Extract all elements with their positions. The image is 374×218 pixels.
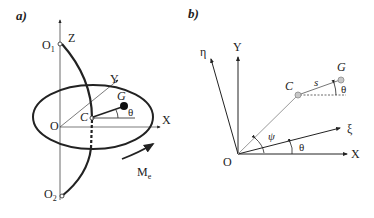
o2-label: O2 <box>44 187 57 203</box>
x-axis-label: X <box>162 113 171 127</box>
oc-line <box>238 95 298 154</box>
psi-label: ψ <box>268 130 275 142</box>
point-o2 <box>60 194 64 198</box>
xi-axis-label: ξ <box>347 122 353 136</box>
cg-segment <box>298 80 340 95</box>
panel-b: b) O η Y X ξ s C G θ ψ <box>188 6 360 169</box>
y-axis-label: Y <box>233 40 242 54</box>
meridian-arc-lower <box>62 148 91 196</box>
eta-axis-label: η <box>200 45 206 59</box>
diagram-canvas: a) Z Y X O1 O2 O C G <box>0 0 374 218</box>
theta-g-arc <box>334 83 336 95</box>
panel-a: a) Z Y X O1 O2 O C G <box>16 8 171 203</box>
point-o1 <box>58 42 62 46</box>
c-label: C <box>285 79 294 93</box>
z-axis-label: Z <box>68 31 75 45</box>
theta-axis-label: θ <box>299 141 304 153</box>
o1-label: O1 <box>42 38 55 54</box>
moment-label: Me <box>137 165 152 181</box>
origin-o-label: O <box>50 119 59 133</box>
theta-arc <box>116 110 118 118</box>
c-label: C <box>80 110 89 124</box>
moment-arrow <box>122 144 153 159</box>
theta-axis-arc <box>290 142 292 154</box>
meridian-arc-hidden <box>91 120 92 148</box>
g-label: G <box>117 89 126 103</box>
theta-label: θ <box>128 106 133 118</box>
g-label: G <box>337 60 346 74</box>
s-label: s <box>314 76 318 88</box>
psi-arc <box>255 138 264 153</box>
meridian-arc-upper <box>62 44 92 118</box>
origin-o-label: O <box>223 155 232 169</box>
eta-axis <box>211 59 238 154</box>
x-axis-label: X <box>351 147 360 161</box>
point-g <box>120 102 128 110</box>
y-axis-label: Y <box>110 72 119 86</box>
panel-a-label: a) <box>16 8 27 23</box>
theta-g-label: θ <box>341 83 346 95</box>
point-c <box>295 92 301 98</box>
xi-axis <box>238 128 340 154</box>
panel-b-label: b) <box>188 6 199 21</box>
